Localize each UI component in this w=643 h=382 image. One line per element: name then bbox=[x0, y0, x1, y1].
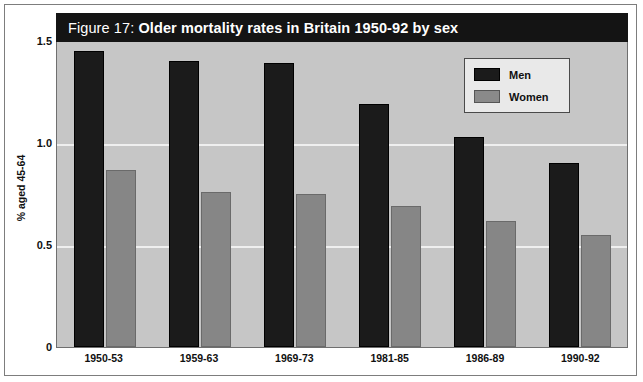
bar-group bbox=[247, 42, 342, 347]
legend-swatch-women-icon bbox=[474, 90, 500, 103]
y-axis-tick-1-5: 1.5 bbox=[6, 35, 52, 47]
chart-legend: Men Women bbox=[464, 58, 570, 113]
bar-women-1981-85 bbox=[391, 206, 421, 347]
bar-women-1959-63 bbox=[201, 192, 231, 347]
bar-women-1950-53 bbox=[106, 170, 136, 347]
bar-men-1986-89 bbox=[454, 137, 484, 347]
figure-title-bar: Figure 17: Older mortality rates in Brit… bbox=[56, 13, 628, 42]
bar-men-1959-63 bbox=[169, 61, 199, 347]
x-axis: 1950-531959-631969-731981-851986-891990-… bbox=[56, 352, 628, 364]
figure-container: Figure 17: Older mortality rates in Brit… bbox=[0, 0, 643, 382]
y-axis-tick-0-5: 0.5 bbox=[6, 239, 52, 251]
legend-swatch-men-icon bbox=[474, 68, 500, 81]
bar-men-1990-92 bbox=[549, 163, 579, 347]
x-axis-tick-1986-89: 1986-89 bbox=[437, 352, 532, 364]
bar-women-1986-89 bbox=[486, 221, 516, 347]
bar-men-1981-85 bbox=[359, 104, 389, 347]
x-axis-tick-1990-92: 1990-92 bbox=[533, 352, 628, 364]
legend-item-men: Men bbox=[474, 66, 561, 83]
legend-label-women: Women bbox=[509, 91, 549, 103]
bar-men-1969-73 bbox=[264, 63, 294, 347]
x-axis-tick-1969-73: 1969-73 bbox=[247, 352, 342, 364]
bar-group bbox=[57, 42, 152, 347]
legend-label-men: Men bbox=[509, 69, 531, 81]
page-title: Figure 17: Older mortality rates in Brit… bbox=[68, 20, 458, 36]
y-axis-tick-0: 0 bbox=[6, 341, 52, 353]
y-axis-tick-1-0: 1.0 bbox=[6, 137, 52, 149]
legend-item-women: Women bbox=[474, 88, 561, 105]
bar-men-1950-53 bbox=[74, 51, 104, 347]
title-main: Older mortality rates in Britain 1950-92… bbox=[138, 20, 458, 36]
bar-women-1969-73 bbox=[296, 194, 326, 347]
x-axis-tick-1959-63: 1959-63 bbox=[151, 352, 246, 364]
title-prefix: Figure 17: bbox=[68, 20, 138, 36]
bar-group bbox=[342, 42, 437, 347]
bar-women-1990-92 bbox=[581, 235, 611, 347]
bar-group bbox=[152, 42, 247, 347]
y-axis-title: % aged 45-64 bbox=[15, 133, 27, 243]
x-axis-tick-1950-53: 1950-53 bbox=[56, 352, 151, 364]
y-axis: % aged 45-64 1.5 1.0 0.5 0 bbox=[0, 42, 52, 348]
x-axis-tick-1981-85: 1981-85 bbox=[342, 352, 437, 364]
